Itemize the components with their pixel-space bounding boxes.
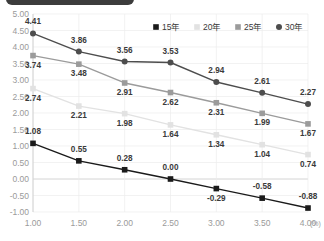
data-point-label: 1.08 (25, 127, 41, 136)
data-point-marker (213, 79, 219, 85)
data-point-label: 0.00 (163, 163, 179, 172)
legend-label-30年[interactable]: 30年 (285, 22, 303, 32)
data-point-label: 3.74 (25, 61, 41, 70)
legend-label-25年[interactable]: 25年 (244, 22, 262, 32)
legend-marker-20年[interactable] (194, 24, 200, 30)
data-point-marker (122, 111, 128, 117)
data-point-label: -0.58 (253, 182, 272, 191)
data-point-marker (30, 30, 36, 36)
data-point-label: 2.74 (25, 94, 41, 103)
y-axis-tick-label: -1.00 (10, 207, 30, 217)
data-point-marker (259, 195, 265, 201)
y-axis-tick-label: 4.00 (12, 42, 29, 52)
data-point-marker (168, 60, 174, 66)
y-axis-tick-label: 1.00 (12, 141, 29, 151)
x-axis-tick-label: 1.00 (25, 218, 42, 228)
data-point-label: 1.99 (254, 118, 270, 127)
data-point-label: 0.74 (300, 160, 316, 169)
data-point-marker (305, 152, 311, 158)
data-point-label: 2.27 (300, 88, 316, 97)
x-axis-unit-label: (%) (310, 220, 321, 228)
data-point-marker (30, 141, 36, 147)
x-axis-tick-label: 3.50 (254, 218, 271, 228)
x-axis-tick-label: 3.00 (208, 218, 225, 228)
data-point-label: 3.48 (71, 69, 87, 78)
legend-marker-25年[interactable] (235, 24, 241, 30)
x-axis-tick-label: 2.00 (116, 218, 133, 228)
data-point-label: 1.04 (254, 150, 270, 159)
data-point-marker (168, 122, 174, 128)
x-axis-tick-label: 2.50 (162, 218, 179, 228)
data-point-label: 0.55 (71, 145, 87, 154)
data-point-marker (122, 167, 128, 173)
data-point-marker (259, 142, 265, 148)
data-point-label: 2.94 (208, 66, 224, 75)
legend-label-15年[interactable]: 15年 (162, 22, 180, 32)
legend-marker-30年[interactable] (276, 24, 282, 30)
data-point-marker (305, 101, 311, 107)
data-point-label: 1.67 (300, 129, 316, 138)
data-point-marker (30, 86, 36, 92)
data-point-label: 3.86 (71, 36, 87, 45)
data-point-marker (30, 53, 36, 59)
y-axis-tick-label: 4.50 (12, 26, 29, 36)
data-point-marker (214, 132, 220, 138)
legend-marker-15年[interactable] (153, 24, 159, 30)
data-point-label: 2.61 (254, 77, 270, 86)
data-point-marker (168, 90, 174, 96)
y-axis-tick-label: 2.00 (12, 108, 29, 118)
series-15年: 1.080.550.280.00-0.29-0.58-0.88 (25, 127, 318, 210)
data-point-label: 4.41 (25, 17, 41, 26)
data-point-label: 3.53 (163, 47, 179, 56)
data-point-marker (305, 121, 311, 127)
data-point-marker (214, 100, 220, 106)
y-axis-tick-label: 3.00 (12, 75, 29, 85)
data-point-marker (76, 61, 82, 67)
data-point-label: 1.64 (163, 130, 179, 139)
data-point-marker (76, 103, 82, 109)
y-axis-tick-label: 0.00 (12, 174, 29, 184)
data-point-marker (122, 59, 128, 65)
y-axis-tick-label: 0.50 (12, 158, 29, 168)
data-point-marker (259, 90, 265, 96)
data-point-marker (214, 186, 220, 192)
data-point-marker (76, 49, 82, 55)
data-point-label: 2.62 (163, 98, 179, 107)
data-point-marker (168, 176, 174, 182)
data-point-label: 3.56 (117, 46, 133, 55)
data-point-label: 1.98 (117, 119, 133, 128)
data-point-label: 2.91 (117, 88, 133, 97)
data-point-marker (259, 111, 265, 117)
line-chart: 5.004.504.003.503.002.502.001.501.000.50… (0, 0, 324, 241)
data-point-marker (122, 80, 128, 86)
chart-container: 5.004.504.003.503.002.502.001.501.000.50… (0, 0, 324, 241)
y-axis-tick-label: -0.50 (10, 191, 30, 201)
data-point-marker (305, 205, 311, 211)
data-point-label: 2.31 (208, 108, 224, 117)
x-axis-tick-label: 1.50 (71, 218, 88, 228)
data-point-marker (76, 158, 82, 164)
data-point-label: 1.34 (208, 140, 224, 149)
data-point-label: 2.21 (71, 111, 87, 120)
data-point-label: -0.88 (299, 192, 318, 201)
data-point-label: 0.28 (117, 154, 133, 163)
data-point-label: -0.29 (207, 194, 226, 203)
legend-label-20年[interactable]: 20年 (203, 22, 221, 32)
